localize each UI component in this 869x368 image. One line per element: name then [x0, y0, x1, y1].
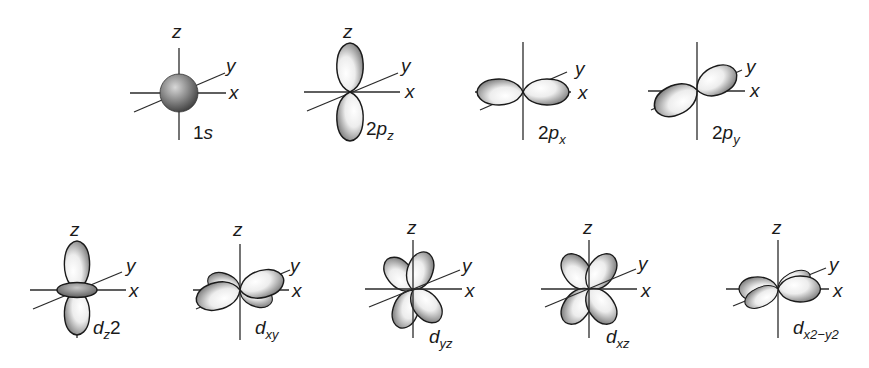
y-label: y: [224, 55, 237, 76]
orbital-dxy: z y x dxy: [193, 219, 303, 342]
orbital-label-2pz: 2pz: [366, 118, 394, 143]
orbital-2pz: z y x 2pz: [304, 21, 416, 143]
orbital-1s: z y x 1s: [130, 21, 240, 143]
orbital-dz2: z y x dz2: [30, 219, 140, 342]
lobe-down: [337, 92, 363, 141]
z-label: z: [342, 21, 353, 42]
lobe-right: [523, 79, 569, 105]
z-label: z: [69, 219, 80, 240]
x-label: x: [577, 82, 589, 103]
orbital-label-dyz: dyz: [429, 326, 453, 351]
y-label: y: [460, 255, 473, 276]
lobe-up: [337, 43, 363, 92]
lobe-front: [649, 77, 703, 123]
x-label: x: [228, 82, 240, 103]
s-sphere: [160, 74, 198, 112]
orbital-label-1s: 1s: [193, 122, 214, 143]
orbital-2py: y x 2py: [648, 42, 761, 147]
orbital-label-dx2-y2: dx2−y2: [793, 317, 839, 342]
x-label: x: [640, 280, 652, 301]
x-label: x: [404, 81, 416, 102]
x-label: x: [832, 280, 844, 301]
atomic-orbitals-diagram: z y x 1s z y x 2pz y x 2px y x 2py: [0, 0, 869, 368]
y-label: y: [744, 56, 757, 77]
lobe-left: [477, 79, 523, 105]
orbital-label-dz2: dz2: [93, 317, 121, 342]
orbital-dx2-y2: z y x dx2−y2: [726, 217, 844, 342]
orbital-label-2py: 2py: [712, 122, 741, 147]
z-label: z: [171, 21, 182, 42]
orbital-label-2px: 2px: [538, 122, 566, 147]
x-label: x: [291, 280, 303, 301]
z-label: z: [232, 219, 243, 240]
x-label: x: [128, 280, 140, 301]
torus: [57, 283, 97, 298]
lobe-back: [691, 59, 742, 102]
y-label: y: [399, 55, 412, 76]
y-label: y: [288, 255, 301, 276]
z-label: z: [582, 217, 593, 238]
y-label: y: [827, 254, 840, 275]
orbital-label-dxz: dxz: [606, 326, 630, 351]
lobe-pos-x: [778, 276, 821, 302]
orbital-dyz: z y x dyz: [365, 217, 476, 351]
y-label: y: [636, 253, 649, 274]
orbital-dxz: z y x dxz: [541, 217, 652, 351]
orbital-2px: y x 2px: [475, 42, 589, 147]
y-label: y: [124, 255, 137, 276]
z-label: z: [406, 217, 417, 238]
z-label: z: [771, 217, 782, 238]
x-label: x: [464, 280, 476, 301]
x-label: x: [749, 80, 761, 101]
y-label: y: [573, 58, 586, 79]
orbital-label-dxy: dxy: [255, 317, 280, 342]
